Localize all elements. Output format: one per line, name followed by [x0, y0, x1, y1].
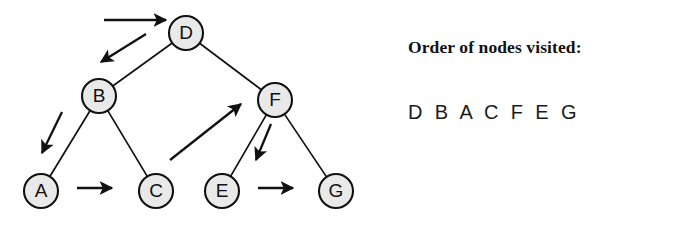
- node-label-b: B: [93, 85, 106, 106]
- tree-node-e: E: [205, 174, 239, 208]
- tree-nodes: DBFACEG: [24, 16, 353, 208]
- tree-edge-b-a: [50, 111, 90, 177]
- arrow-C-to-F: [170, 104, 241, 160]
- tree-node-f: F: [258, 83, 292, 117]
- node-label-c: C: [149, 180, 163, 201]
- node-label-g: G: [329, 180, 344, 201]
- legend-title: Order of nodes visited:: [408, 37, 582, 58]
- node-label-f: F: [269, 89, 281, 110]
- traversal-figure: DBFACEG Order of nodes visited: D B A C …: [0, 0, 673, 231]
- node-label-e: E: [216, 180, 229, 201]
- tree-node-g: G: [319, 174, 353, 208]
- legend-panel: Order of nodes visited: D B A C F E G: [406, 0, 673, 231]
- tree-node-c: C: [139, 174, 173, 208]
- binary-tree-graphic: DBFACEG: [0, 0, 380, 231]
- tree-edge-d-f: [200, 43, 262, 90]
- tree-edge-f-g: [284, 114, 326, 177]
- node-label-a: A: [35, 180, 48, 201]
- traversal-arrows: [42, 20, 293, 188]
- tree-node-a: A: [24, 174, 58, 208]
- arrow-D-to-B: [101, 34, 146, 62]
- node-label-d: D: [179, 22, 193, 43]
- tree-node-d: D: [169, 16, 203, 50]
- arrow-B-to-A: [42, 112, 62, 153]
- tree-edge-b-c: [108, 111, 148, 177]
- tree-node-b: B: [82, 79, 116, 113]
- legend-visit-sequence: D B A C F E G: [408, 101, 580, 124]
